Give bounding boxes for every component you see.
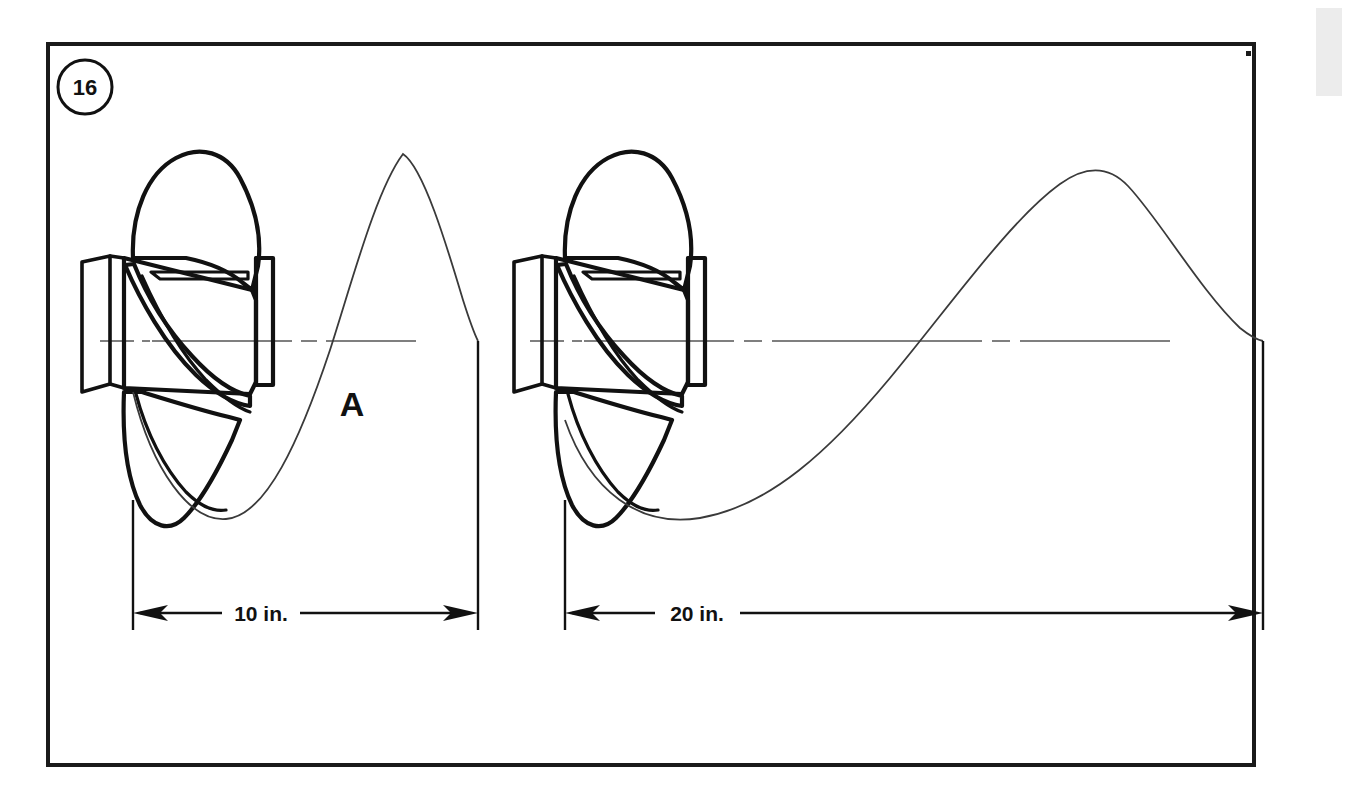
rear-blade-flange (82, 256, 110, 392)
dimension-label-10in: 10 in. (234, 602, 288, 625)
dimension-10in: 10 in. (133, 602, 478, 625)
letter-label-a: A (340, 385, 365, 423)
callout-number: 16 (73, 75, 97, 100)
scan-artifact-band (1316, 8, 1342, 96)
propeller-pitch-diagram: 16 (0, 0, 1349, 809)
hub-shaft-boss (256, 258, 273, 385)
propeller-right (514, 152, 705, 526)
hub-shaft-boss-right (688, 258, 705, 385)
callout-16: 16 (58, 60, 112, 114)
upper-blade-outline (133, 152, 259, 290)
figure-container: 16 (0, 0, 1349, 809)
helix-curve-right (565, 170, 1263, 519)
propeller-left (82, 152, 273, 526)
rear-blade-flange-right (514, 256, 542, 392)
figure-border (48, 44, 1254, 765)
dimension-20in: 20 in. (565, 602, 1263, 625)
dimension-label-20in: 20 in. (670, 602, 724, 625)
helix-curve-left (133, 154, 478, 519)
upper-blade-outline-right (565, 152, 691, 290)
speck-artifact (1246, 51, 1251, 56)
